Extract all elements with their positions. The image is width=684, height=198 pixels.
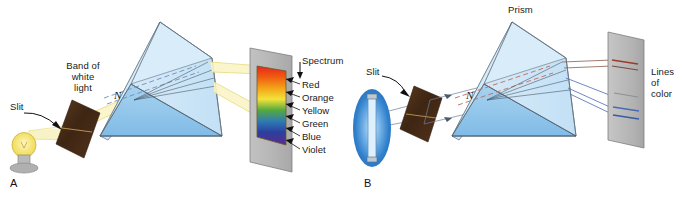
lines-line-3: color: [651, 88, 672, 99]
panel-letter-b: B: [364, 178, 371, 189]
spectrum-screen: [250, 48, 292, 172]
spectrum-color-blue: Blue: [302, 131, 321, 142]
prism-dispersion-figure: Slit Band ofwhitelight N Spectrum Red Or…: [0, 0, 684, 198]
panel-letter-a: A: [10, 178, 17, 189]
band-line-2: white: [72, 71, 95, 82]
spectrum-color-violet: Violet: [302, 144, 326, 155]
slit-pointer-b: [382, 76, 410, 97]
spectrum-color-orange: Orange: [302, 92, 334, 103]
prism-b: [452, 22, 576, 140]
band-of-white-light-label: Band ofwhitelight: [46, 60, 120, 93]
spectrum-color-green: Green: [302, 118, 328, 129]
figure-canvas: [0, 0, 684, 198]
lines-of-color-label: Linesofcolor: [651, 66, 674, 99]
slit-label-b: Slit: [366, 66, 380, 77]
slit-plate-a: [56, 100, 100, 158]
fluorescent-tube: [353, 89, 391, 167]
band-line-1: Band of: [66, 60, 99, 71]
band-line-3: light: [74, 82, 92, 93]
spectrum-label: Spectrum: [302, 55, 343, 66]
line-spectrum-screen: [608, 32, 644, 148]
normal-label-a: N: [114, 90, 121, 101]
prism-label: Prism: [508, 4, 533, 15]
spectrum-color-yellow: Yellow: [302, 105, 329, 116]
normal-label-b: N: [466, 90, 473, 101]
spectrum-color-red: Red: [302, 79, 319, 90]
slit-label-a: Slit: [10, 101, 24, 112]
lines-line-2: of: [651, 77, 659, 88]
lines-line-1: Lines: [651, 66, 674, 77]
incandescent-bulb: [10, 133, 38, 174]
